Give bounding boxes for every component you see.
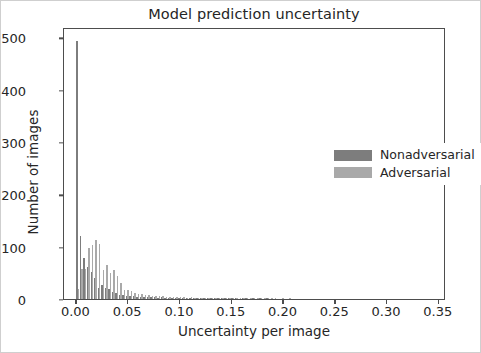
histogram-bar (124, 290, 125, 299)
histogram-bar (236, 298, 237, 299)
x-tick-mark (386, 300, 387, 304)
histogram-bar (268, 298, 269, 299)
histogram-bar (194, 298, 195, 299)
x-tick-mark (334, 300, 335, 304)
histogram-bar (191, 297, 192, 299)
histogram-bar (261, 298, 262, 299)
x-tick-mark (127, 300, 128, 304)
histogram-bar (187, 298, 188, 299)
x-tick-mark (75, 300, 76, 304)
x-tick-mark (231, 300, 232, 304)
histogram-bar (117, 276, 118, 299)
histogram-bar (152, 296, 153, 299)
histogram-bar (229, 298, 230, 299)
histogram-bar (215, 298, 216, 299)
histogram-bar (127, 290, 128, 299)
y-tick-label: 100 (0, 240, 26, 255)
histogram-bar (180, 297, 181, 299)
histogram-bar (219, 298, 220, 299)
histogram-bar (85, 269, 86, 299)
y-tick-label: 500 (0, 31, 26, 46)
y-tick-label: 0 (0, 293, 26, 308)
histogram-bar (243, 298, 244, 299)
histogram-bar (250, 298, 251, 299)
histogram-bar (176, 297, 177, 299)
histogram-bar (76, 41, 77, 299)
histogram-bar (247, 298, 248, 299)
legend-label-nonadversarial: Nonadversarial (380, 149, 475, 162)
histogram-bar (110, 273, 111, 299)
legend-label-adversarial: Adversarial (380, 167, 450, 180)
histogram-bar (198, 298, 199, 299)
histogram-bar (271, 298, 272, 299)
chart-title: Model prediction uncertainty (63, 6, 445, 22)
x-tick-label: 0.35 (408, 304, 468, 319)
histogram-bar (81, 269, 82, 299)
histogram-bar (233, 298, 234, 299)
histogram-bar (95, 240, 96, 299)
histogram-bar (169, 297, 170, 299)
histogram-bar (201, 298, 202, 299)
histogram-bar (282, 298, 283, 299)
histogram-bar (226, 298, 227, 299)
y-axis-label: Number of images (25, 77, 41, 267)
histogram-bar (155, 296, 156, 299)
x-tick-mark (179, 300, 180, 304)
histogram-bar (162, 296, 163, 299)
legend-item-nonadversarial: Nonadversarial (334, 149, 475, 162)
histogram-bar (159, 296, 160, 299)
chart-figure: Model prediction uncertainty Number of i… (0, 0, 481, 353)
histogram-bar (141, 294, 142, 299)
y-tick-label: 400 (0, 83, 26, 98)
y-tick-label: 300 (0, 136, 26, 151)
histogram-bar (88, 248, 89, 299)
histogram-bar (254, 298, 255, 299)
histogram-bar (92, 245, 93, 299)
histogram-bar (113, 270, 114, 299)
x-tick-mark (438, 300, 439, 304)
x-axis-label: Uncertainty per image (63, 323, 445, 339)
x-tick-mark (282, 300, 283, 304)
histogram-bar (145, 295, 146, 299)
histogram-bar (106, 265, 107, 299)
histogram-bar (148, 295, 149, 299)
y-tick-label: 200 (0, 188, 26, 203)
histogram-bar (264, 298, 265, 299)
histogram-bar (131, 291, 132, 299)
histogram-bar (138, 294, 139, 299)
histogram-bar (103, 270, 104, 299)
histogram-bar (212, 298, 213, 299)
chart-legend: Nonadversarial Adversarial (328, 143, 481, 185)
histogram-bar (120, 283, 121, 299)
legend-swatch-adversarial (334, 167, 372, 178)
histogram-bar (257, 298, 258, 299)
legend-item-adversarial: Adversarial (334, 167, 475, 180)
histogram-bar (222, 298, 223, 299)
histogram-bar (205, 298, 206, 299)
histogram-bar (166, 297, 167, 299)
histogram-bar (275, 298, 276, 299)
histogram-bar (99, 244, 100, 299)
histogram-bar (173, 297, 174, 299)
histogram-bar (289, 298, 290, 299)
histogram-bar (240, 298, 241, 299)
histogram-bar (134, 293, 135, 299)
histogram-bar (183, 297, 184, 299)
legend-swatch-nonadversarial (334, 150, 372, 161)
histogram-bar (78, 289, 79, 299)
histogram-bar (208, 298, 209, 299)
